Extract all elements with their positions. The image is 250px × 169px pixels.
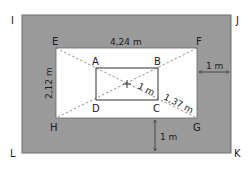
label-b: B bbox=[154, 56, 161, 67]
label-h: H bbox=[50, 122, 58, 133]
label-i: I bbox=[11, 15, 14, 26]
label-e: E bbox=[52, 36, 58, 47]
label-f: F bbox=[196, 36, 202, 47]
label-c: C bbox=[153, 103, 160, 114]
label-a: A bbox=[92, 56, 99, 67]
label-j: J bbox=[235, 15, 239, 26]
label-l: L bbox=[10, 148, 16, 159]
swimming-pool-diagram: I J K L E F G H A B C D 4,24 m 2,12 m 1 … bbox=[0, 0, 250, 169]
dimension-ef: 4,24 m bbox=[110, 37, 142, 47]
label-g: G bbox=[193, 122, 201, 133]
dimension-bottom-border: 1 m bbox=[160, 132, 177, 142]
label-d: D bbox=[92, 103, 100, 114]
dimension-right-border: 1 m bbox=[206, 61, 223, 71]
label-k: K bbox=[234, 148, 241, 159]
dimension-eh: 2,12 m bbox=[44, 67, 54, 99]
